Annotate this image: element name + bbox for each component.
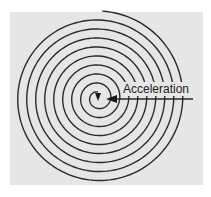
spiral-diagram <box>0 0 211 197</box>
velocity-arrowhead-icon <box>95 93 101 101</box>
acceleration-label: Acceleration <box>122 82 190 96</box>
